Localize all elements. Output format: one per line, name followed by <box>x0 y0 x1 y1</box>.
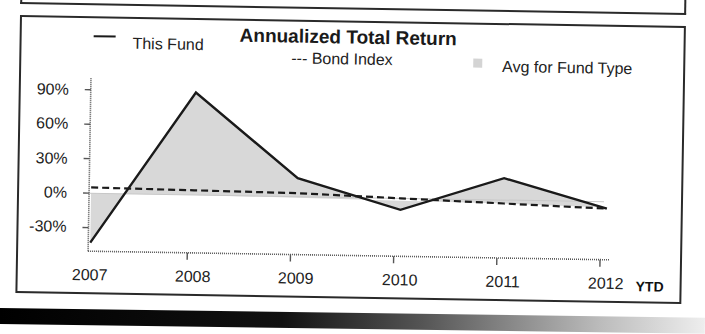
avg-fund-type-area <box>90 91 608 251</box>
x-tick-label: 2008 <box>175 268 211 287</box>
plot-area <box>17 17 688 306</box>
x-tick-label: 2009 <box>278 269 314 288</box>
x-tick-label: 2010 <box>382 271 418 290</box>
x-tick-label: 2007 <box>72 266 108 285</box>
x-ticks <box>187 253 600 267</box>
previous-panel-frame <box>20 0 687 15</box>
x-axis-line <box>88 251 610 260</box>
x-tick-label: 2011 <box>485 273 520 292</box>
annualized-return-panel: Annualized Total Return This Fund --- Bo… <box>15 15 686 304</box>
ytd-label: YTD <box>635 278 663 294</box>
x-tick-label: 2012 <box>588 274 624 293</box>
chart-scene: Annualized Total Return This Fund --- Bo… <box>0 0 705 332</box>
